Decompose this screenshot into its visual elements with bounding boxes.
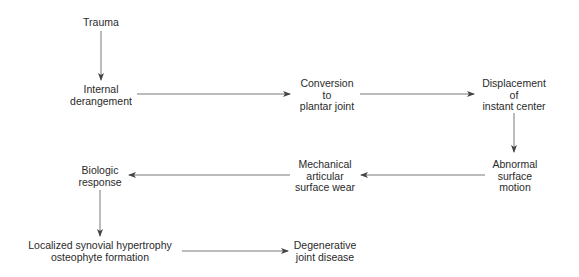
node-line: Biologic bbox=[72, 165, 128, 177]
node-trauma: Trauma bbox=[72, 17, 130, 29]
node-line: surface wear bbox=[290, 182, 360, 194]
node-line: Conversion bbox=[292, 78, 362, 90]
node-line: joint disease bbox=[290, 252, 360, 264]
node-displacement: Displacement of instant center bbox=[478, 78, 550, 113]
node-line: Trauma bbox=[72, 17, 130, 29]
diagram-edges bbox=[0, 0, 579, 277]
node-line: motion bbox=[488, 182, 542, 194]
node-biologic-response: Biologic response bbox=[72, 165, 128, 188]
node-line: Abnormal bbox=[488, 159, 542, 171]
node-mechanical-wear: Mechanical articular surface wear bbox=[290, 159, 360, 194]
node-line: osteophyte formation bbox=[20, 252, 180, 264]
node-line: Localized synovial hypertrophy bbox=[20, 240, 180, 252]
node-synovial-hypertrophy: Localized synovial hypertrophy osteophyt… bbox=[20, 240, 180, 263]
node-line: derangement bbox=[62, 96, 140, 108]
node-line: response bbox=[72, 177, 128, 189]
node-conversion: Conversion to plantar joint bbox=[292, 78, 362, 113]
node-line: Displacement bbox=[478, 78, 550, 90]
node-line: Degenerative bbox=[290, 240, 360, 252]
node-degenerative-disease: Degenerative joint disease bbox=[290, 240, 360, 263]
node-line: instant center bbox=[478, 101, 550, 113]
node-line: plantar joint bbox=[292, 101, 362, 113]
node-abnormal-motion: Abnormal surface motion bbox=[488, 159, 542, 194]
node-line: Mechanical bbox=[290, 159, 360, 171]
node-internal-derangement: Internal derangement bbox=[62, 84, 140, 107]
node-line: Internal bbox=[62, 84, 140, 96]
